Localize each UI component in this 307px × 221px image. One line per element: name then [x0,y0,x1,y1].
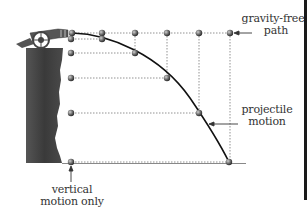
gravity-free-label: gravity-free path [238,13,307,37]
projectile-diagram: gravity-free path projectile motion vert… [0,0,307,221]
vertical-label: vertical motion only [36,184,108,208]
horizontal-guides [72,33,230,162]
vertical-label-line2: motion only [36,196,108,208]
page-edge-bar [304,0,307,200]
gravity-free-label-line2: path [244,25,307,37]
label-arrows [69,31,252,182]
projectile-curve [72,33,229,162]
cannon-icon [16,29,68,48]
vertical-motion-balls [68,36,74,165]
vertical-guides [102,33,230,162]
projectile-label: projectile motion [232,104,302,128]
cliff [26,48,63,163]
projectile-label-line2: motion [232,116,302,128]
projectile-balls [99,36,232,165]
